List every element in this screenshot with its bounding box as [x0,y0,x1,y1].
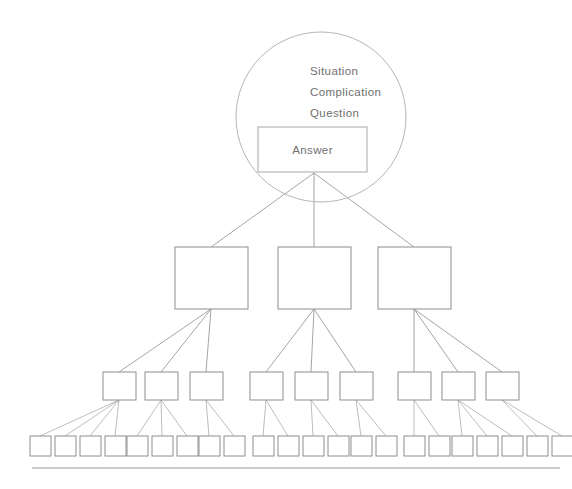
level-four-box-10[interactable] [278,436,299,456]
connector-l3-4-to-l4-11 [311,400,313,436]
level-four-box-6[interactable] [177,436,198,456]
connector-l3-6-to-l4-16 [414,400,439,436]
level-three-box-2[interactable] [190,372,223,400]
level-four-box-14[interactable] [376,436,397,456]
level-four-box-5[interactable] [152,436,173,456]
diagram-canvas: Situation Complication Question Answer [0,0,572,489]
connector-l3-0-to-l4-3 [115,400,119,436]
level-three-box-8[interactable] [486,372,519,400]
level-four-box-7[interactable] [199,436,220,456]
level-four-box-13[interactable] [351,436,372,456]
level-four-box-20[interactable] [527,436,548,456]
connector-l3-1-to-l4-5 [161,400,162,436]
level-four-box-4[interactable] [127,436,148,456]
connector-l2-1-to-l3-3 [266,309,314,372]
connector-l2-1-to-l3-4 [311,309,314,372]
connector-l2-0-to-l3-1 [161,309,211,372]
connector-l3-7-to-l4-17 [458,400,462,436]
level-four-box-11[interactable] [303,436,324,456]
level-three-box-0[interactable] [103,372,136,400]
connector-group-level-three [40,400,562,436]
level-four-box-15[interactable] [404,436,425,456]
connector-l3-0-to-l4-0 [40,400,119,436]
level-four-box-0[interactable] [30,436,51,456]
level-four-box-9[interactable] [253,436,274,456]
connector-l3-1-to-l4-6 [161,400,187,436]
connector-root-to-l2-0 [211,173,314,247]
level-four-box-16[interactable] [429,436,450,456]
connector-l3-0-to-l4-1 [65,400,119,436]
label-complication: Complication [310,86,381,98]
connector-root-to-l2-2 [314,173,414,247]
level-four-box-8[interactable] [224,436,245,456]
pyramid-diagram: Situation Complication Question Answer [0,0,572,489]
connector-l3-7-to-l4-19 [458,400,512,436]
connector-l2-2-to-l3-8 [414,309,502,372]
connector-l3-2-to-l4-8 [206,400,234,436]
level-four-box-3[interactable] [105,436,126,456]
connector-l3-0-to-l4-2 [90,400,119,436]
connector-l2-0-to-l3-0 [119,309,211,372]
level-four-box-1[interactable] [55,436,76,456]
connector-l3-4-to-l4-12 [311,400,338,436]
connector-l2-1-to-l3-5 [314,309,356,372]
level-three-box-1[interactable] [145,372,178,400]
level-four-box-2[interactable] [80,436,101,456]
connector-l3-3-to-l4-10 [266,400,288,436]
label-question: Question [310,107,359,119]
level-four-box-18[interactable] [477,436,498,456]
connector-group-level-two [119,309,502,372]
level-four-box-12[interactable] [328,436,349,456]
connector-l2-0-to-l3-2 [206,309,211,372]
connector-l3-1-to-l4-4 [137,400,161,436]
level-three-box-4[interactable] [295,372,328,400]
level-two-box-1[interactable] [278,247,351,309]
level-three-box-3[interactable] [250,372,283,400]
label-situation: Situation [310,65,358,77]
level-three-box-6[interactable] [398,372,431,400]
level-four-box-19[interactable] [502,436,523,456]
level-four-box-17[interactable] [452,436,473,456]
connector-l2-2-to-l3-7 [414,309,458,372]
level-three-box-5[interactable] [340,372,373,400]
level-four-box-21[interactable] [552,436,572,456]
level-three-box-7[interactable] [442,372,475,400]
level-two-box-2[interactable] [378,247,451,309]
connector-l3-2-to-l4-7 [206,400,209,436]
level-four-row [30,436,572,456]
level-two-row [175,247,451,309]
level-three-row [103,372,519,400]
connector-l3-3-to-l4-9 [263,400,266,436]
level-two-box-0[interactable] [175,247,248,309]
connector-group-root [211,173,414,247]
answer-box-label: Answer [292,144,333,156]
connector-l3-7-to-l4-18 [458,400,487,436]
